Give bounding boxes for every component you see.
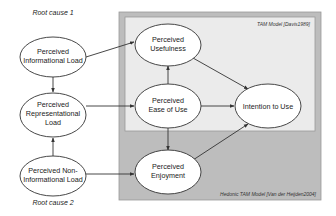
node-intention-to-use: Intention to Use — [235, 84, 301, 128]
tam-box-label: TAM Model [Davis1989] — [257, 21, 311, 27]
node-enjoyment: Perceived Enjoyment — [135, 150, 201, 194]
node-non-informational-load: Perceived Non- Informational Load — [20, 156, 86, 196]
svg-text:Representational: Representational — [26, 109, 81, 118]
node-ease-of-use: Perceived Ease of Use — [135, 84, 201, 128]
node-representational-load: Perceived Representational Load — [20, 93, 86, 137]
svg-text:Informational Load: Informational Load — [23, 175, 83, 184]
svg-text:Perceived Non-: Perceived Non- — [28, 166, 78, 175]
root-cause-1-label: Root cause 1 — [32, 9, 73, 16]
svg-text:Perceived: Perceived — [152, 162, 184, 171]
hedonic-box-label: Hedonic TAM Model [Van der Heijden2004] — [220, 191, 316, 197]
svg-text:Perceived: Perceived — [37, 47, 69, 56]
svg-text:Ease of Use: Ease of Use — [148, 105, 187, 114]
svg-text:Informational Load: Informational Load — [23, 56, 83, 65]
svg-text:Perceived: Perceived — [152, 35, 184, 44]
root-cause-2-label: Root cause 2 — [32, 199, 73, 206]
svg-text:Perceived: Perceived — [152, 96, 184, 105]
svg-text:Load: Load — [45, 118, 61, 127]
diagram-canvas: TAM Model [Davis1989] Hedonic TAM Model … — [0, 0, 336, 216]
svg-text:Enjoyment: Enjoyment — [151, 171, 185, 180]
svg-text:Usefulness: Usefulness — [150, 44, 186, 53]
node-informational-load: Perceived Informational Load — [20, 37, 86, 77]
svg-text:Perceived: Perceived — [37, 100, 69, 109]
svg-text:Intention to Use: Intention to Use — [243, 102, 293, 111]
node-usefulness: Perceived Usefulness — [135, 24, 201, 66]
